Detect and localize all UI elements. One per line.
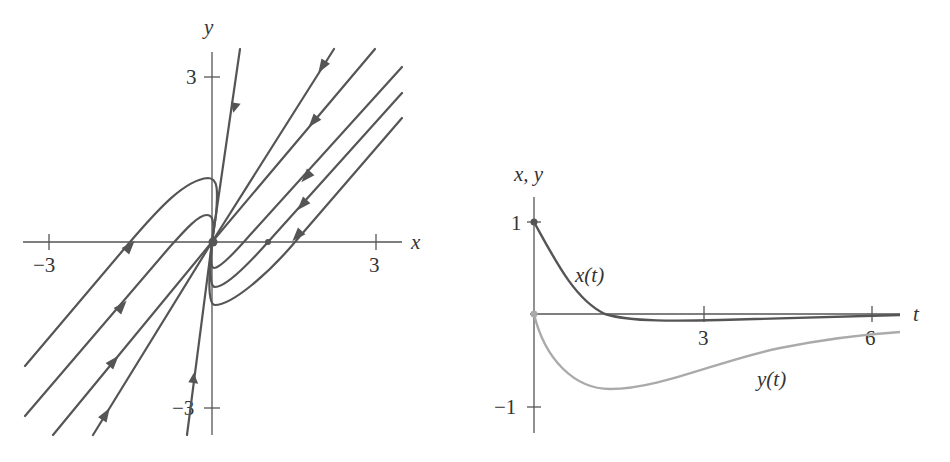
initial-point-marker <box>265 239 271 245</box>
x0-marker <box>531 219 538 226</box>
figure: y x −3 3 3 −3 <box>0 0 950 462</box>
critical-point-marker <box>209 238 218 247</box>
t-axis-label: t <box>913 302 920 326</box>
arrow-icon <box>114 297 131 314</box>
arrow-icon <box>188 372 199 383</box>
xy-axis-label: x, y <box>513 162 544 186</box>
y-of-t-label: y(t) <box>755 367 786 391</box>
x-tick-label-neg3: −3 <box>33 253 55 277</box>
y-of-t-curve <box>534 314 900 389</box>
x-tick-label-3: 3 <box>369 253 380 277</box>
trajectory-ur-1 <box>212 49 334 242</box>
y0-marker <box>531 311 538 318</box>
arrow-icon <box>122 237 139 254</box>
phase-portrait: y x −3 3 3 −3 <box>23 15 421 435</box>
y-tick-label-3: 3 <box>186 65 197 89</box>
x-axis-label: x <box>410 230 421 254</box>
arrow-icon <box>298 168 315 185</box>
t-tick-label-6: 6 <box>865 326 876 350</box>
trajectory-loop-r-1 <box>211 67 402 268</box>
y-tick-label-neg1: −1 <box>494 395 516 419</box>
y-axis-label: y <box>202 15 214 39</box>
x-of-t-label: x(t) <box>574 263 604 287</box>
trajectory-loop-ul-2 <box>25 215 213 416</box>
y-tick-label-1: 1 <box>511 211 522 235</box>
arrow-icon <box>98 405 114 422</box>
t-tick-label-3: 3 <box>698 326 709 350</box>
time-series-plot: x, y t 1 −1 3 6 x(t) y(t) <box>494 162 920 433</box>
